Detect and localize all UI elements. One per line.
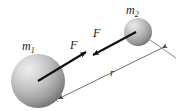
extension-line-right <box>150 40 176 58</box>
mass2-sphere <box>124 18 152 46</box>
force-label-left: F <box>69 38 78 52</box>
mass2-label: m2 <box>126 3 139 19</box>
distance-label: r <box>110 66 115 78</box>
figure-canvas: m1 m2 F F r <box>0 0 186 111</box>
force-label-right: F <box>92 26 101 40</box>
physics-figure: m1 m2 F F r <box>0 0 186 111</box>
mass1-label: m1 <box>22 39 35 55</box>
